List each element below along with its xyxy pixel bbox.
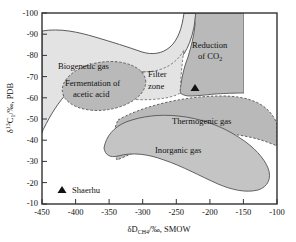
y-tick-8: -20 (27, 178, 38, 188)
x-tick-0: -450 (34, 207, 50, 217)
x-tick-1: -400 (68, 207, 84, 217)
y-tick-0: -100 (22, 8, 38, 18)
label-filter-zone-line2: zone (148, 81, 164, 91)
chart-figure: Biogenetic gas Fermentation of acetic ac… (0, 0, 296, 242)
isotope-scatter-chart: Biogenetic gas Fermentation of acetic ac… (0, 0, 296, 242)
y-tick-1: -90 (27, 29, 38, 39)
x-tick-6: -150 (236, 207, 252, 217)
label-biogenetic-gas: Biogenetic gas (58, 61, 109, 71)
y-tick-3: -70 (27, 72, 38, 82)
x-tick-2: -350 (101, 207, 117, 217)
legend-label-shaerhu: Shaerhu (72, 185, 101, 195)
y-tick-2: -80 (27, 50, 38, 60)
y-tick-7: -30 (27, 156, 38, 166)
label-reduction-line2: of CO2 (198, 51, 222, 62)
label-inorganic-gas: Inorganic gas (155, 145, 202, 155)
y-tick-5: -50 (27, 114, 38, 124)
label-thermogenic-gas: Thermogenic gas (172, 116, 232, 126)
y-tick-6: -40 (27, 135, 38, 145)
x-tick-5: -200 (202, 207, 218, 217)
x-axis-title: δDCH4/‰, SMOW (127, 224, 190, 235)
label-fermentation-line2: acetic acid (73, 89, 110, 99)
label-reduction-line1: Reduction (192, 40, 228, 50)
x-tick-4: -250 (169, 207, 185, 217)
x-tick-3: -300 (135, 207, 151, 217)
x-tick-7: -100 (269, 207, 285, 217)
label-filter-zone-line1: Filter (148, 69, 167, 79)
label-fermentation-line1: Fermentation of (65, 78, 120, 88)
y-tick-4: -60 (27, 93, 38, 103)
